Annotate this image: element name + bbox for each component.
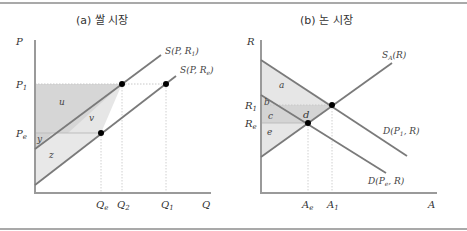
- area-e-label: e: [267, 127, 272, 137]
- supply-r1-label: S(P, R1): [165, 46, 199, 57]
- area-v-label: v: [89, 113, 94, 123]
- q2-tick-label: Q2: [117, 199, 130, 212]
- area-z-label: z: [48, 150, 54, 160]
- r1-tick-label: R1: [244, 100, 257, 113]
- demand-pe-label: D(Pe, R): [367, 176, 405, 187]
- re-tick-label: Re: [244, 118, 257, 131]
- a1-tick-label: A1: [326, 199, 339, 212]
- supply-re-label: S(P, Re): [180, 65, 214, 76]
- point-p1-q2: [119, 81, 125, 87]
- p-axis-label: P: [15, 36, 23, 47]
- chart-canvas: P Q P1 Pe Qe Q2 Q1 S(P, R1) S(P, Re) u v…: [0, 0, 467, 231]
- area-y-label: y: [36, 134, 43, 144]
- point-re-ae: [305, 120, 311, 126]
- a-axis-label: A: [427, 199, 435, 210]
- area-u-label: u: [59, 97, 65, 107]
- pe-tick-label: Pe: [15, 128, 27, 141]
- qe-tick-label: Qe: [96, 199, 108, 212]
- ae-tick-label: Ae: [301, 199, 313, 212]
- panel-a-chart: P Q P1 Pe Qe Q2 Q1 S(P, R1) S(P, Re) u v…: [15, 36, 214, 212]
- point-pe-qe: [98, 130, 104, 136]
- point-p1-q1: [163, 81, 169, 87]
- area-d-label: d: [303, 109, 309, 120]
- point-r1-a1: [329, 102, 335, 108]
- r-axis-label: R: [246, 36, 255, 47]
- panel-b-chart: R A R1 Re Ae A1 SA(R) D(P1, R) D(Pe, R) …: [244, 36, 437, 212]
- demand-p1-label: D(P1, R): [382, 126, 420, 137]
- area-b-label: b: [264, 97, 270, 107]
- q-axis-label: Q: [202, 199, 210, 210]
- p1-tick-label: P1: [15, 79, 27, 92]
- q1-tick-label: Q1: [161, 199, 174, 212]
- area-a-label: a: [279, 80, 284, 90]
- supply-sa-label: SA(R): [382, 50, 407, 61]
- area-c-label: c: [268, 111, 273, 121]
